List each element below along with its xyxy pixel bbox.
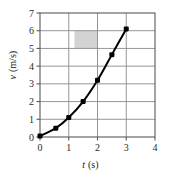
y-tick-label: 6 [29,25,34,36]
shaded-region [75,31,98,49]
data-point [95,78,100,83]
x-tick-label: 4 [153,142,158,153]
data-point [109,52,114,57]
y-tick-label: 7 [29,8,34,19]
y-axis-title: v (m/s) [7,51,19,80]
data-point [38,134,43,139]
x-axis-title: t (s) [82,159,98,171]
x-tick-label: 0 [38,142,43,153]
y-axis-title-symbol: v [7,74,18,79]
y-tick-label: 3 [29,78,34,89]
velocity-time-chart: 01234567 01234 t (s) v (m/s) [0,0,186,180]
y-tick-label: 1 [29,114,34,125]
chart-svg: 01234567 01234 t (s) v (m/s) [0,0,186,180]
y-tick-label: 4 [29,61,34,72]
x-axis-title-unit: (s) [88,159,99,171]
y-axis-tick-labels: 01234567 [29,8,34,143]
y-tick-label: 0 [29,132,34,143]
y-axis-title-unit: (m/s) [7,51,19,72]
x-axis-title-symbol: t [82,159,85,170]
data-point [53,126,58,131]
y-tick-label: 5 [29,43,34,54]
x-tick-label: 3 [124,142,129,153]
data-point [124,26,129,31]
x-tick-label: 2 [95,142,100,153]
data-point [81,99,86,104]
data-point [66,115,71,120]
x-tick-label: 1 [66,142,71,153]
y-tick-label: 2 [29,96,34,107]
x-axis-tick-labels: 01234 [38,142,158,153]
